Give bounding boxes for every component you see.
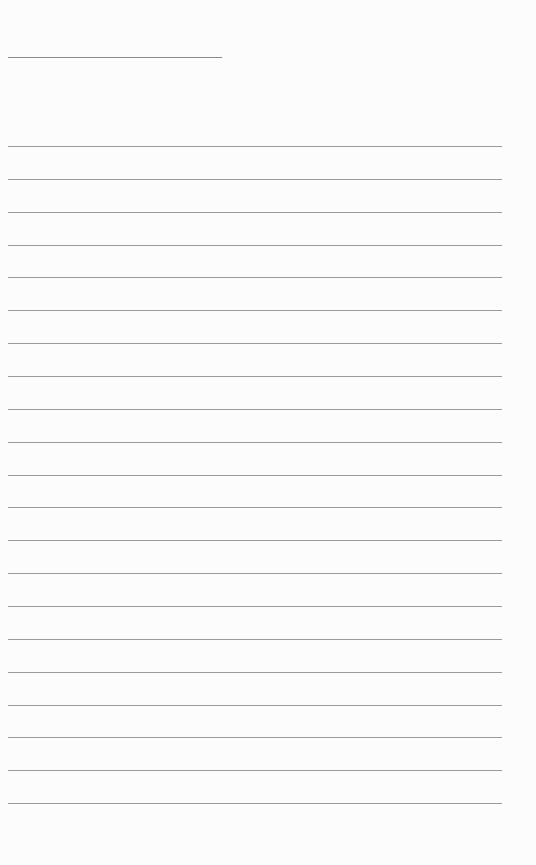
ruled-line xyxy=(8,507,502,508)
ruled-line xyxy=(8,179,502,180)
ruled-line xyxy=(8,737,502,738)
ruled-line xyxy=(8,376,502,377)
ruled-line xyxy=(8,212,502,213)
ruled-line xyxy=(8,705,502,706)
ruled-line xyxy=(8,245,502,246)
ruled-line xyxy=(8,672,502,673)
ruled-line xyxy=(8,606,502,607)
ruled-line xyxy=(8,442,502,443)
ruled-line xyxy=(8,409,502,410)
ruled-line xyxy=(8,639,502,640)
ruled-line xyxy=(8,310,502,311)
title-line xyxy=(8,57,222,58)
ruled-line xyxy=(8,146,502,147)
ruled-line xyxy=(8,475,502,476)
ruled-line xyxy=(8,803,502,804)
ruled-line xyxy=(8,277,502,278)
ruled-line xyxy=(8,540,502,541)
ruled-line xyxy=(8,343,502,344)
ruled-line xyxy=(8,770,502,771)
ruled-line xyxy=(8,573,502,574)
lined-paper xyxy=(0,0,536,865)
